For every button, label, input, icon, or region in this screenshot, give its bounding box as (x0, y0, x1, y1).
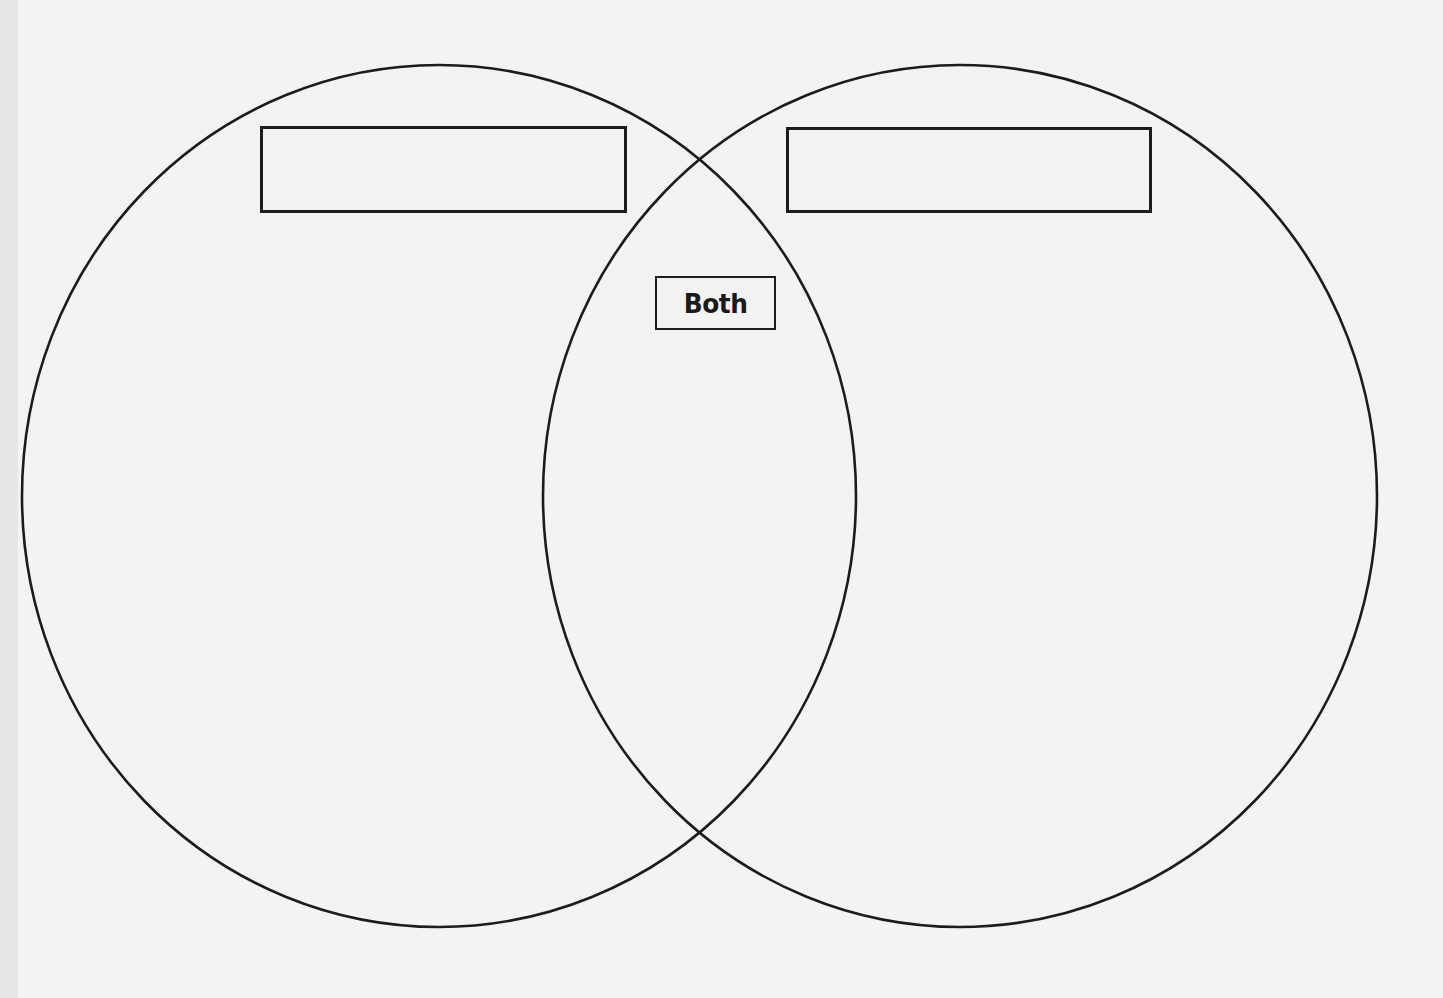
venn-diagram (0, 0, 1443, 998)
intersection-label-box: Both (655, 276, 776, 330)
intersection-label-text: Both (684, 288, 748, 319)
right-set-label-box[interactable] (786, 127, 1152, 213)
venn-diagram-worksheet: Both (0, 0, 1443, 998)
left-set-label-box[interactable] (260, 126, 627, 213)
